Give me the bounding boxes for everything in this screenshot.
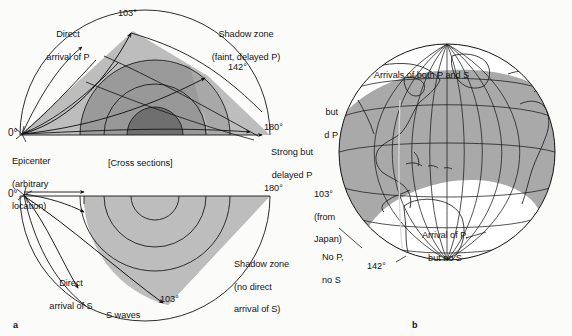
shadow-zone-p-line2: (faint, delayed P) [212, 52, 281, 62]
shadow-zone-p-line1: Shadow zone [218, 29, 273, 39]
label-direct-arrival-of-s: Direct arrival of S [26, 267, 106, 323]
epicenter-line3: location) [12, 201, 46, 211]
label-cross-sections: [Cross sections] [108, 158, 173, 169]
globe-arrival-p-line1: Arrival of P, [422, 230, 468, 240]
globe-103-line1: 103° [314, 189, 333, 199]
label-shadow-zone-s: Shadow zone (no direct arrival of S) [224, 248, 289, 326]
label-globe-no-p-no-s: No P, no S [312, 241, 344, 297]
epicenter-line1: Epicenter [12, 156, 50, 166]
seismic-shadow-zone-figure: Direct arrival of P 103° Shadow zone (fa… [0, 0, 572, 336]
panel-letter-b: b [412, 320, 418, 330]
panel-letter-a: a [13, 320, 18, 330]
shadow-zone-s-line2: (no direct [234, 282, 272, 292]
label-zero-degree-p: 0° [8, 127, 17, 138]
label-arrivals-both-p-and-s: Arrivals of both P and S [374, 70, 469, 81]
label-s-waves-caption: S waves [106, 310, 140, 321]
shadow-zone-s-line1: Shadow zone [234, 259, 289, 269]
label-angle-103-p: 103° [118, 8, 137, 19]
label-direct-arrival-of-p: Direct arrival of P [26, 18, 100, 74]
label-globe-arrival-of-p: Arrival of P, but no S [394, 219, 486, 275]
coastline-alaska [352, 60, 382, 65]
direct-arrival-p-line1: Direct [56, 29, 80, 39]
label-angle-103-s: 103° [160, 294, 179, 305]
label-angle-142-p: 142° [228, 62, 247, 73]
globe-arrival-p-line2: but no S [428, 253, 462, 263]
globe-but-line2: d P [324, 130, 338, 140]
label-angle-180-s: 180° [264, 183, 283, 194]
direct-arrival-p-line2: arrival of P [46, 52, 89, 62]
label-epicenter: Epicenter (arbitrary location) [2, 145, 50, 223]
direct-arrival-s-line1: Direct [59, 278, 83, 288]
globe-no-p-line1: No P, [322, 252, 344, 262]
shadow-zone-s-line3: arrival of S) [234, 304, 280, 314]
label-globe-but-d-p: but d P [276, 96, 338, 152]
direct-arrival-s-line2: arrival of S [49, 301, 92, 311]
globe-103-line2: (from [314, 212, 335, 222]
globe-but-line1: but [325, 107, 338, 117]
label-globe-angle-142: 142° [367, 261, 386, 272]
globe-no-p-line2: no S [322, 275, 341, 285]
label-zero-degree-s: 0° [8, 188, 17, 199]
